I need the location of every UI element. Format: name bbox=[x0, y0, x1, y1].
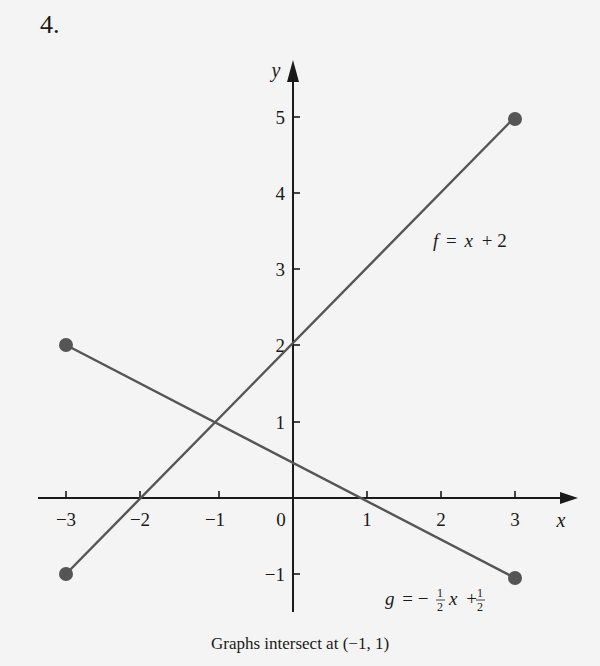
y-tick-label: 5 bbox=[276, 107, 286, 128]
svg-text:g = −: g = − bbox=[385, 588, 428, 609]
endpoint-dot bbox=[508, 571, 522, 585]
endpoint-dot bbox=[508, 112, 522, 126]
svg-text:2: 2 bbox=[477, 600, 483, 614]
endpoint-dot bbox=[59, 567, 73, 581]
y-tick-label: −1 bbox=[265, 564, 285, 585]
x-tick-label: −3 bbox=[56, 509, 76, 530]
y-tick-label: 3 bbox=[276, 259, 286, 280]
label-f: f = x + 2 bbox=[433, 230, 507, 251]
x-tick-label: −1 bbox=[205, 509, 225, 530]
x-axis: −3 −2 −1 0 1 2 3 x bbox=[38, 491, 578, 531]
x-tick-label: −2 bbox=[130, 509, 150, 530]
x-axis-arrow-icon bbox=[560, 492, 578, 504]
chart: −3 −2 −1 0 1 2 3 x 5 4 3 2 1 −1 y bbox=[0, 0, 600, 666]
svg-text:1: 1 bbox=[477, 586, 483, 600]
svg-text:2: 2 bbox=[437, 600, 443, 614]
x-tick-label: 1 bbox=[362, 509, 372, 530]
svg-text:1: 1 bbox=[437, 586, 443, 600]
x-axis-label: x bbox=[556, 509, 566, 531]
x-tick-label: 2 bbox=[436, 509, 446, 530]
series-g bbox=[59, 338, 522, 585]
label-g: g = − 1 2 x + 1 2 bbox=[385, 586, 485, 614]
caption: Graphs intersect at (−1, 1) bbox=[0, 634, 600, 654]
y-tick-label: 1 bbox=[276, 412, 286, 433]
svg-text:x +: x + bbox=[448, 588, 477, 609]
series-f bbox=[59, 112, 522, 581]
y-axis-arrow-icon bbox=[287, 60, 299, 82]
y-tick-label: 4 bbox=[276, 183, 286, 204]
x-tick-label: 0 bbox=[276, 509, 286, 530]
x-tick-label: 3 bbox=[510, 509, 520, 530]
y-axis-label: y bbox=[270, 59, 281, 82]
endpoint-dot bbox=[59, 338, 73, 352]
